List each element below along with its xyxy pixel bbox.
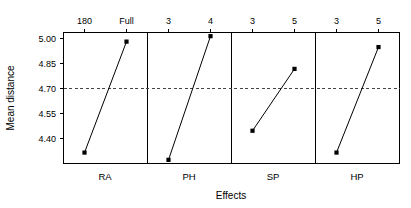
series-ph [166, 34, 212, 162]
y-axis-ticks [60, 39, 64, 139]
y-tick-label-4.85: 4.85 [38, 59, 56, 69]
series-ra [82, 40, 128, 155]
series-line-ra [85, 42, 127, 153]
level-label-sp-5: 5 [292, 16, 297, 26]
y-axis-title: Mean distance [5, 65, 16, 130]
series-line-ph [169, 36, 211, 160]
y-tick-label-4.70: 4.70 [38, 84, 56, 94]
main-effects-plot: 5.00 4.85 4.70 4.55 4.40 Mean distance 1… [0, 0, 411, 208]
level-label-sp-3: 3 [250, 16, 255, 26]
panel-label-ph: PH [182, 171, 195, 182]
level-label-hp-3: 3 [334, 16, 339, 26]
data-point-hp-3 [334, 150, 338, 154]
level-label-ra-full: Full [119, 16, 134, 26]
panel-frame-hp [316, 33, 400, 164]
panel-labels: RA PH SP HP [98, 171, 363, 182]
level-label-ph-3: 3 [166, 16, 171, 26]
y-axis-tick-labels: 5.00 4.85 4.70 4.55 4.40 [38, 34, 56, 144]
level-labels: 180 Full 3 4 3 5 3 5 [77, 16, 381, 26]
series-line-sp [253, 69, 295, 131]
y-tick-label-4.55: 4.55 [38, 109, 56, 119]
level-label-hp-5: 5 [376, 16, 381, 26]
x-axis-title: Effects [216, 190, 246, 201]
panel-label-hp: HP [350, 171, 363, 182]
panel-frames [64, 33, 400, 164]
data-point-ra-180 [82, 150, 86, 154]
level-label-ra-180: 180 [77, 16, 92, 26]
panel-frame-sp [232, 33, 316, 164]
data-point-sp-5 [292, 67, 296, 71]
data-point-ph-4 [208, 34, 212, 38]
chart-canvas: 5.00 4.85 4.70 4.55 4.40 Mean distance 1… [0, 0, 411, 208]
panel-label-ra: RA [98, 171, 112, 182]
data-point-hp-5 [376, 45, 380, 49]
level-label-ph-4: 4 [208, 16, 213, 26]
series-line-hp [337, 47, 379, 153]
data-point-ra-Full [124, 40, 128, 44]
y-tick-label-5.00: 5.00 [38, 34, 56, 44]
series-hp [334, 45, 380, 155]
data-point-ph-3 [166, 158, 170, 162]
series-sp [250, 67, 296, 133]
y-tick-label-4.40: 4.40 [38, 134, 56, 144]
level-tick-marks [85, 29, 379, 33]
data-point-sp-3 [250, 129, 254, 133]
panel-label-sp: SP [267, 171, 280, 182]
